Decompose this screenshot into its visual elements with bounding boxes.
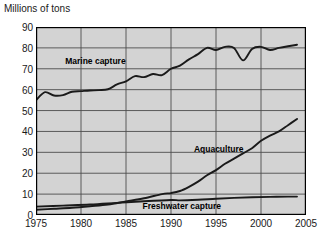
x-tick-label: 1985: [115, 218, 137, 229]
x-tick-label: 1980: [70, 218, 92, 229]
y-tick-label: 60: [3, 84, 33, 95]
y-tick-label: 20: [3, 168, 33, 179]
freshwater-capture-label: Freshwater capture: [143, 201, 221, 211]
x-tick-label: 1990: [160, 218, 182, 229]
y-tick-label: 80: [3, 42, 33, 53]
plot-svg: [36, 27, 306, 215]
y-tick-label: 40: [3, 126, 33, 137]
y-tick-label: 70: [3, 63, 33, 74]
y-tick-label: 30: [3, 147, 33, 158]
y-axis-title: Millions of tons: [4, 3, 70, 14]
x-tick-label: 1975: [25, 218, 47, 229]
marine-capture-label: Marine capture: [65, 56, 125, 66]
x-tick-label: 2005: [295, 218, 317, 229]
x-tick-label: 1995: [205, 218, 227, 229]
y-tick-label: 90: [3, 22, 33, 33]
aquaculture-label: Aquaculture: [194, 144, 244, 154]
plot-area: 0102030405060708090 19751980198519901995…: [36, 27, 306, 215]
y-tick-label: 50: [3, 105, 33, 116]
y-tick-label: 10: [3, 189, 33, 200]
fisheries-production-chart: Millions of tons 0102030405060708090 197…: [0, 0, 322, 245]
x-tick-label: 2000: [250, 218, 272, 229]
